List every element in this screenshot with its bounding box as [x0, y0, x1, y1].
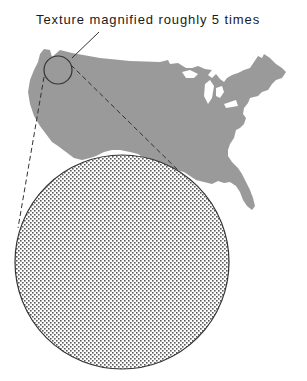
- caption-leader-line: [72, 32, 99, 58]
- magnification-diagram: [0, 0, 307, 381]
- dot-texture: [15, 155, 229, 369]
